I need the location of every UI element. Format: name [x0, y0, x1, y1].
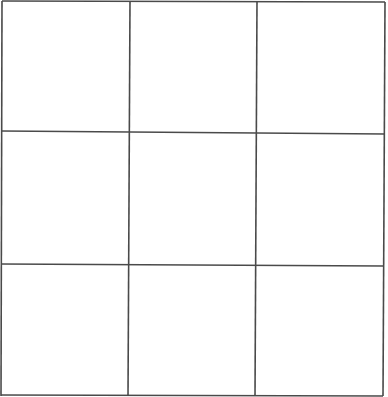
cell-2-0[interactable]: [2, 266, 128, 395]
cell-0-2[interactable]: [258, 3, 384, 133]
cell-0-0[interactable]: [3, 3, 129, 131]
cell-1-2[interactable]: [257, 135, 384, 265]
cell-0-1[interactable]: [131, 3, 256, 132]
cell-2-2[interactable]: [256, 267, 383, 395]
cell-1-1[interactable]: [130, 134, 256, 264]
cell-2-1[interactable]: [129, 266, 255, 395]
cell-1-0[interactable]: [3, 133, 129, 264]
tic-tac-toe-board: [0, 0, 388, 397]
top-border: [2, 1, 385, 2]
bottom-border: [1, 395, 383, 396]
